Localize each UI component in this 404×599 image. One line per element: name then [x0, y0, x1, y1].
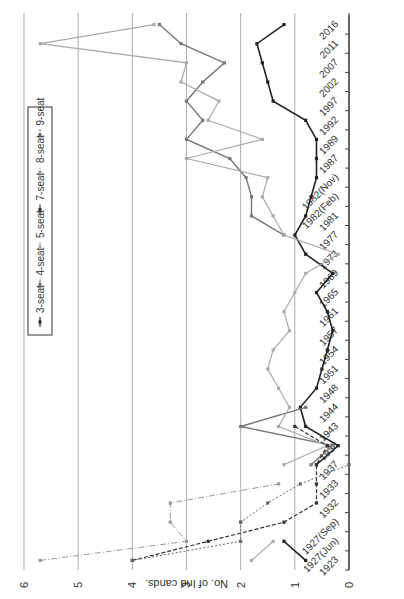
data-point	[169, 501, 172, 504]
data-point	[179, 80, 182, 83]
series-line	[40, 484, 278, 561]
x-tick-label: 1948	[317, 382, 341, 406]
data-point	[223, 61, 226, 64]
data-point	[207, 119, 210, 122]
data-point	[304, 406, 307, 409]
data-point	[207, 540, 210, 543]
x-tick-label: 1987	[317, 152, 341, 176]
legend-marker	[39, 246, 42, 249]
data-point	[266, 80, 269, 83]
y-tick-label: 4	[126, 582, 138, 588]
y-tick-label: 2	[235, 582, 247, 588]
data-point	[304, 425, 307, 428]
data-point	[185, 100, 188, 103]
y-tick-label: 0	[343, 582, 355, 588]
data-point	[277, 482, 280, 485]
data-point	[152, 23, 155, 26]
data-point	[315, 138, 318, 141]
data-point	[282, 23, 285, 26]
legend-marker	[39, 133, 42, 136]
data-point	[272, 214, 275, 217]
data-point	[185, 61, 188, 64]
data-point	[299, 482, 302, 485]
chart-stage: 0123456No. of Ind cands.19231927(Jun)192…	[0, 0, 404, 599]
rotated-chart: 0123456No. of Ind cands.19231927(Jun)192…	[0, 0, 404, 599]
legend-marker	[39, 321, 42, 324]
data-point	[228, 157, 231, 160]
y-tick-label: 5	[72, 582, 84, 588]
x-tick-label: 1977	[317, 228, 341, 252]
data-point	[315, 157, 318, 160]
data-point	[304, 272, 307, 275]
x-tick-label: 2002	[317, 75, 341, 99]
data-point	[217, 100, 220, 103]
data-point	[185, 138, 188, 141]
series-8-seat	[39, 482, 281, 562]
data-point	[179, 42, 182, 45]
data-point	[331, 444, 334, 447]
data-point	[201, 119, 204, 122]
data-point	[272, 348, 275, 351]
data-point	[320, 367, 323, 370]
data-point	[315, 291, 318, 294]
data-point	[39, 559, 42, 562]
data-point	[239, 540, 242, 543]
x-tick-label: 1932	[317, 496, 341, 520]
data-point	[277, 425, 280, 428]
line-chart: 0123456No. of Ind cands.19231927(Jun)192…	[0, 0, 404, 599]
data-point	[337, 253, 340, 256]
y-tick-label: 1	[289, 582, 301, 588]
data-point	[282, 540, 285, 543]
data-point	[331, 272, 334, 275]
data-point	[315, 501, 318, 504]
data-point	[250, 214, 253, 217]
series-7-seat	[131, 425, 329, 562]
data-point	[261, 61, 264, 64]
legend-marker	[39, 283, 42, 286]
data-point	[185, 540, 188, 543]
series-line	[251, 541, 273, 560]
data-point	[304, 253, 307, 256]
data-point	[288, 329, 291, 332]
data-point	[288, 406, 291, 409]
data-point	[309, 463, 312, 466]
data-point	[131, 559, 134, 562]
data-point	[282, 521, 285, 524]
data-point	[282, 310, 285, 313]
x-tick-label: 1965	[317, 286, 341, 310]
data-point	[315, 482, 318, 485]
data-point	[293, 425, 296, 428]
x-tick-label: 1944	[317, 401, 341, 425]
data-point	[250, 559, 253, 562]
data-point	[331, 329, 334, 332]
legend-marker	[39, 208, 42, 211]
x-tick-label: 1992	[317, 114, 341, 138]
series-line	[132, 426, 327, 560]
y-tick-label: 6	[18, 582, 30, 588]
x-tick-label: 1933	[317, 477, 341, 501]
x-tick-label: 1997	[317, 94, 341, 118]
data-point	[244, 176, 247, 179]
data-point	[250, 195, 253, 198]
data-point	[304, 214, 307, 217]
data-point	[272, 540, 275, 543]
legend-marker	[39, 171, 42, 174]
x-tick-label: 2011	[317, 37, 340, 60]
data-point	[337, 444, 340, 447]
data-point	[201, 80, 204, 83]
data-point	[326, 310, 329, 313]
data-point	[315, 176, 318, 179]
data-point	[266, 176, 269, 179]
data-point	[185, 157, 188, 160]
data-point	[255, 42, 258, 45]
data-point	[315, 387, 318, 390]
data-point	[39, 42, 42, 45]
data-point	[239, 521, 242, 524]
data-point	[272, 100, 275, 103]
x-tick-label: 2016	[317, 18, 341, 42]
legend-label: 9-seat	[35, 97, 46, 125]
data-point	[282, 233, 285, 236]
data-point	[261, 195, 264, 198]
data-point	[304, 559, 307, 562]
data-point	[326, 348, 329, 351]
